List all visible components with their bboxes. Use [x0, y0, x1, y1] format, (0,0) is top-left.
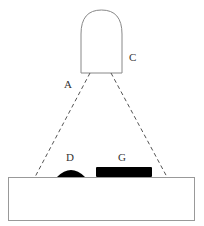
label-g: G — [118, 151, 126, 163]
dashed-line-left — [35, 73, 90, 177]
diagram: A C D G — [0, 0, 204, 226]
base-surface — [9, 178, 195, 221]
capsule-c — [81, 10, 122, 73]
object-g — [96, 167, 152, 177]
label-a: A — [64, 78, 72, 90]
object-d — [57, 170, 85, 177]
label-d: D — [66, 151, 74, 163]
label-c: C — [129, 51, 136, 63]
